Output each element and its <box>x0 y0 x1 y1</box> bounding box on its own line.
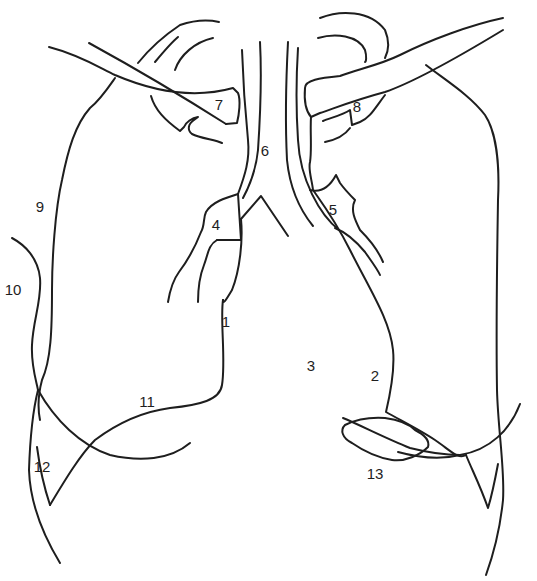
label-7: 7 <box>215 96 223 113</box>
left-12-v <box>37 447 50 505</box>
left-bronchus-4-inner <box>198 240 217 302</box>
trachea-right-inner <box>286 42 313 226</box>
left-scapula-arc-outer <box>138 21 219 63</box>
diagram-labels: 12345678910111213 <box>5 96 384 482</box>
label-10: 10 <box>5 281 22 298</box>
right-mediastinum-2 <box>309 117 466 456</box>
right-bronchus-5 <box>310 175 383 262</box>
label-12: 12 <box>34 458 51 475</box>
left-clavicle-upper <box>49 47 240 124</box>
left-clavicle-lower <box>89 43 226 124</box>
label-2: 2 <box>371 367 379 384</box>
label-4: 4 <box>212 216 220 233</box>
left-costophrenic <box>38 390 190 459</box>
label-8: 8 <box>353 98 361 115</box>
label-3: 3 <box>307 357 315 374</box>
left-scapula-arc-3 <box>175 38 213 70</box>
carina <box>241 196 288 236</box>
trachea-left-outer <box>238 50 248 194</box>
right-lung-lateral <box>426 65 503 575</box>
left-chest-wall-10 <box>12 238 40 390</box>
left-lung-lateral <box>39 78 115 420</box>
chest-diagram: 12345678910111213 <box>0 0 537 581</box>
label-6: 6 <box>261 142 269 159</box>
left-bronchus-4-upper <box>168 194 238 302</box>
label-9: 9 <box>36 198 44 215</box>
label-13: 13 <box>367 465 384 482</box>
left-main-bronchus <box>223 219 242 302</box>
right-scapula-arc-inner <box>318 36 366 62</box>
left-diaphragm-11 <box>50 300 223 505</box>
right-coracoid-lower <box>325 128 350 142</box>
right-12-v <box>466 455 498 508</box>
label-5: 5 <box>329 201 337 218</box>
label-1: 1 <box>222 313 230 330</box>
diagram-lines <box>12 13 520 575</box>
label-11: 11 <box>139 393 155 410</box>
left-coracoid <box>151 96 222 143</box>
